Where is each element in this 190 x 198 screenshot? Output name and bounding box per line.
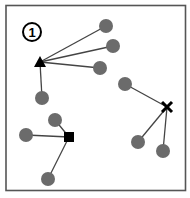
data-point	[106, 39, 120, 53]
edge-line	[48, 137, 69, 179]
nodes	[19, 19, 170, 186]
data-point	[156, 144, 170, 158]
edge-line	[125, 84, 167, 107]
data-point	[93, 61, 107, 75]
data-point	[41, 172, 55, 186]
label-badge: 1	[23, 23, 41, 41]
label-text: 1	[28, 25, 35, 40]
edge-line	[40, 46, 113, 62]
edge-line	[40, 26, 106, 62]
cluster-diagram: 1	[0, 0, 190, 198]
data-point	[35, 91, 49, 105]
edge-line	[40, 62, 100, 68]
data-point	[19, 128, 33, 142]
data-point	[118, 77, 132, 91]
data-point	[99, 19, 113, 33]
data-point	[48, 113, 62, 127]
square-centroid-icon	[64, 132, 74, 142]
data-point	[131, 135, 145, 149]
